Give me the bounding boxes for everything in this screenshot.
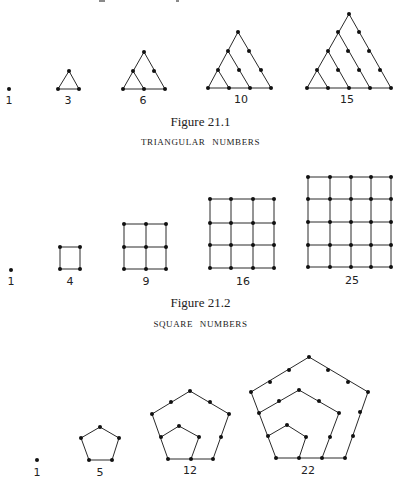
dot (368, 86, 372, 90)
pentagonal-numbers-figure: 151222 (34, 355, 371, 479)
dot (389, 197, 393, 201)
dot (152, 69, 156, 73)
dot (122, 267, 126, 271)
dot (121, 87, 125, 91)
dot (249, 390, 253, 394)
dot (229, 197, 233, 201)
dot (144, 245, 148, 249)
dot (144, 222, 148, 226)
dot (369, 243, 373, 247)
dot (389, 86, 393, 90)
dot (366, 390, 370, 394)
dot (67, 69, 71, 73)
dot (7, 87, 11, 91)
dot (77, 87, 81, 91)
dot (389, 175, 393, 179)
dot (336, 68, 340, 72)
number-label: 22 (301, 464, 315, 477)
dot (56, 87, 60, 91)
dot (347, 86, 351, 90)
dot (219, 435, 223, 439)
dot (251, 266, 255, 270)
dot (269, 86, 273, 90)
pentagonal-number-12: 12 (150, 389, 231, 477)
dot (208, 243, 212, 247)
dot (166, 457, 170, 461)
dot (227, 412, 231, 416)
dot (307, 355, 311, 359)
dot (229, 221, 233, 225)
dot (110, 458, 114, 462)
dot (346, 380, 350, 384)
dot (206, 86, 210, 90)
number-label: 1 (6, 94, 13, 107)
dot (272, 197, 276, 201)
dot (208, 266, 212, 270)
dot (357, 68, 361, 72)
dot (251, 243, 255, 247)
dot (358, 410, 362, 414)
dot (287, 368, 291, 372)
dot (274, 456, 278, 460)
dot (367, 49, 371, 53)
dot (346, 49, 350, 53)
dot (208, 197, 212, 201)
dot (349, 265, 353, 269)
dot (58, 245, 62, 249)
dot (306, 175, 310, 179)
number-label: 15 (340, 93, 354, 106)
dot (268, 380, 272, 384)
dot (306, 265, 310, 269)
number-label: 9 (143, 275, 150, 288)
dot (378, 68, 382, 72)
figure-subtitle-square: SQUARE NUMBERS (0, 319, 401, 329)
dot (189, 457, 193, 461)
dot (211, 457, 215, 461)
dot (326, 49, 330, 53)
edge-line (218, 70, 229, 88)
number-label: 25 (345, 274, 359, 287)
dot (328, 243, 332, 247)
dot (328, 175, 332, 179)
dot (188, 389, 192, 393)
dot (305, 86, 309, 90)
edge-line (58, 71, 69, 89)
edge-line (317, 70, 328, 88)
dot (144, 267, 148, 271)
figure-caption-21-1: Figure 21.1 (0, 114, 401, 130)
dot (297, 388, 301, 392)
dot (389, 220, 393, 224)
square-number-1: 1 (8, 268, 15, 288)
dot (326, 368, 330, 372)
dot (259, 68, 263, 72)
dot (326, 86, 330, 90)
dot (349, 243, 353, 247)
dot (227, 86, 231, 90)
dot (317, 399, 321, 403)
dot (349, 197, 353, 201)
triangular-number-3: 3 (56, 69, 81, 107)
triangular-number-6: 6 (121, 50, 167, 107)
dot (164, 267, 168, 271)
pentagon-outline (259, 390, 339, 458)
square-numbers-figure: 1491625 (8, 175, 394, 288)
dot (150, 412, 154, 416)
number-label: 1 (8, 275, 15, 288)
dot (349, 220, 353, 224)
dot (229, 243, 233, 247)
dot (164, 245, 168, 249)
dot (142, 87, 146, 91)
triangular-number-1: 1 (6, 87, 13, 107)
dot (369, 175, 373, 179)
dot (122, 245, 126, 249)
dot (297, 456, 301, 460)
dot (216, 68, 220, 72)
edge-line (338, 32, 370, 88)
figure-subtitle-triangular: TRIANGULAR NUMBERS (0, 137, 401, 147)
dot (272, 221, 276, 225)
number-label: 16 (236, 275, 250, 288)
dot (320, 456, 324, 460)
dot (369, 197, 373, 201)
number-label: 3 (65, 94, 72, 107)
dot (328, 265, 332, 269)
